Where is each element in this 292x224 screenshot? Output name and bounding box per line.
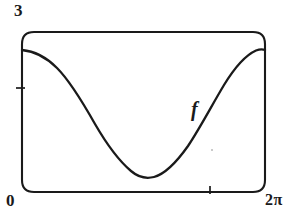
curve-name-label: f [191,99,198,119]
y-axis-max-label: 3 [14,2,23,19]
plot-canvas [0,0,292,224]
x-axis-max-label: 2π [265,192,283,208]
figure-container: 3 0 2π f [0,0,292,224]
function-curve [22,49,265,177]
scan-speck [211,149,213,151]
x-axis-min-label: 0 [6,192,15,209]
axis-frame [22,32,265,192]
